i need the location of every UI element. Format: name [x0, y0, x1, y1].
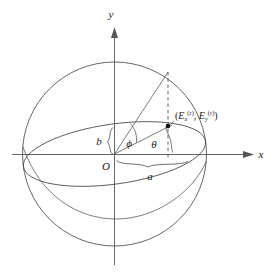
field-point-label: (Ex(r), Ey(r))	[175, 109, 218, 122]
brace-b	[108, 128, 114, 155]
angle-arc-theta	[166, 128, 173, 153]
angle-phi-label: ϕ	[126, 137, 132, 149]
angle-theta-label: θ	[151, 138, 157, 150]
x-axis-arrowhead	[243, 151, 254, 158]
point-label-ex: E	[177, 110, 184, 121]
semi-minor-label: b	[96, 135, 102, 147]
y-axis-label: y	[108, 8, 114, 20]
point-label-close-paren: )	[214, 110, 217, 122]
geometry-diagram: y x O b a ϕ θ (Ex(r), Ey(r))	[0, 0, 275, 280]
radial-line-to-point	[115, 125, 173, 154]
point-label-ey: E	[198, 110, 205, 121]
point-label-ex-subscript: x	[183, 115, 187, 122]
y-axis-arrowhead	[111, 27, 118, 38]
point-label-ey-subscript: y	[204, 115, 208, 122]
origin-label: O	[102, 160, 110, 172]
field-point-marker	[166, 124, 171, 129]
radial-line-to-surface	[115, 72, 169, 154]
brace-a	[117, 161, 189, 168]
semi-major-label: a	[147, 170, 153, 182]
figure-container: y x O b a ϕ θ (Ex(r), Ey(r))	[0, 0, 275, 280]
x-axis-label: x	[258, 148, 264, 160]
